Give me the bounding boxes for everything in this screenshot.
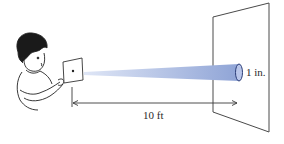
card bbox=[63, 58, 83, 83]
diagram-canvas bbox=[0, 0, 284, 144]
hair bbox=[17, 33, 47, 62]
pinhole bbox=[72, 70, 74, 72]
distance-arrow bbox=[72, 87, 237, 107]
beam-spot-ellipse bbox=[236, 64, 243, 81]
beam-diameter-label: 1 in. bbox=[246, 67, 266, 78]
light-beam bbox=[84, 64, 243, 81]
boy-illustration bbox=[17, 33, 64, 110]
distance-label: 10 ft bbox=[143, 110, 163, 121]
